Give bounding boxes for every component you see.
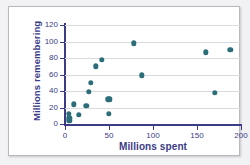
data-point: [76, 112, 81, 117]
x-tick-mark: [109, 126, 110, 130]
data-point: [139, 73, 144, 78]
data-point: [93, 64, 98, 69]
y-tick-mark: [60, 91, 64, 92]
data-point: [88, 80, 93, 85]
data-point: [67, 118, 72, 123]
scatter-plot-area: [65, 25, 241, 124]
x-tick-label: 150: [185, 131, 209, 140]
y-tick-label: 60: [49, 71, 58, 79]
y-tick-label: 100: [45, 38, 58, 46]
chart-card: Millions remembering Millions spent 0204…: [8, 6, 240, 156]
x-tick-mark: [241, 126, 242, 130]
data-point: [83, 103, 88, 108]
data-point: [131, 40, 136, 45]
data-point: [203, 50, 208, 55]
x-tick-label: 200: [229, 131, 250, 140]
y-tick-label: 0: [54, 120, 58, 128]
data-point: [212, 90, 217, 95]
y-tick-mark: [60, 108, 64, 109]
y-tick-mark: [60, 75, 64, 76]
y-tick-mark: [60, 58, 64, 59]
data-point: [86, 89, 91, 94]
data-point: [107, 97, 112, 102]
x-tick-label: 100: [141, 131, 165, 140]
y-axis-title: Millions remembering: [31, 21, 42, 121]
data-point: [71, 101, 76, 106]
y-tick-mark: [60, 42, 64, 43]
x-tick-mark: [197, 126, 198, 130]
data-point: [106, 111, 111, 116]
x-tick-mark: [153, 126, 154, 130]
y-tick-label: 120: [45, 21, 58, 29]
x-axis-title: Millions spent: [64, 141, 242, 152]
y-tick-label: 20: [49, 104, 58, 112]
y-tick-mark: [60, 25, 64, 26]
figure-frame: Millions remembering Millions spent 0204…: [0, 0, 250, 165]
y-tick-label: 80: [49, 54, 58, 62]
x-tick-label: 0: [53, 131, 77, 140]
x-tick-mark: [65, 126, 66, 130]
y-tick-label: 40: [49, 87, 58, 95]
data-point: [99, 57, 104, 62]
y-tick-mark: [60, 124, 64, 125]
x-tick-label: 50: [97, 131, 121, 140]
data-point: [228, 47, 233, 52]
